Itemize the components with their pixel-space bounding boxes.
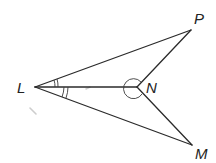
- point-label-P: P: [194, 10, 204, 27]
- geometry-diagram: L N P M: [0, 0, 216, 163]
- angle-mark-NLM-icon: [62, 87, 68, 98]
- scan-smudge: [30, 108, 36, 114]
- point-label-M: M: [195, 145, 208, 162]
- point-label-L: L: [17, 79, 25, 96]
- point-label-N: N: [146, 79, 157, 96]
- segment-LP: [35, 30, 191, 87]
- segment-LM: [35, 87, 192, 145]
